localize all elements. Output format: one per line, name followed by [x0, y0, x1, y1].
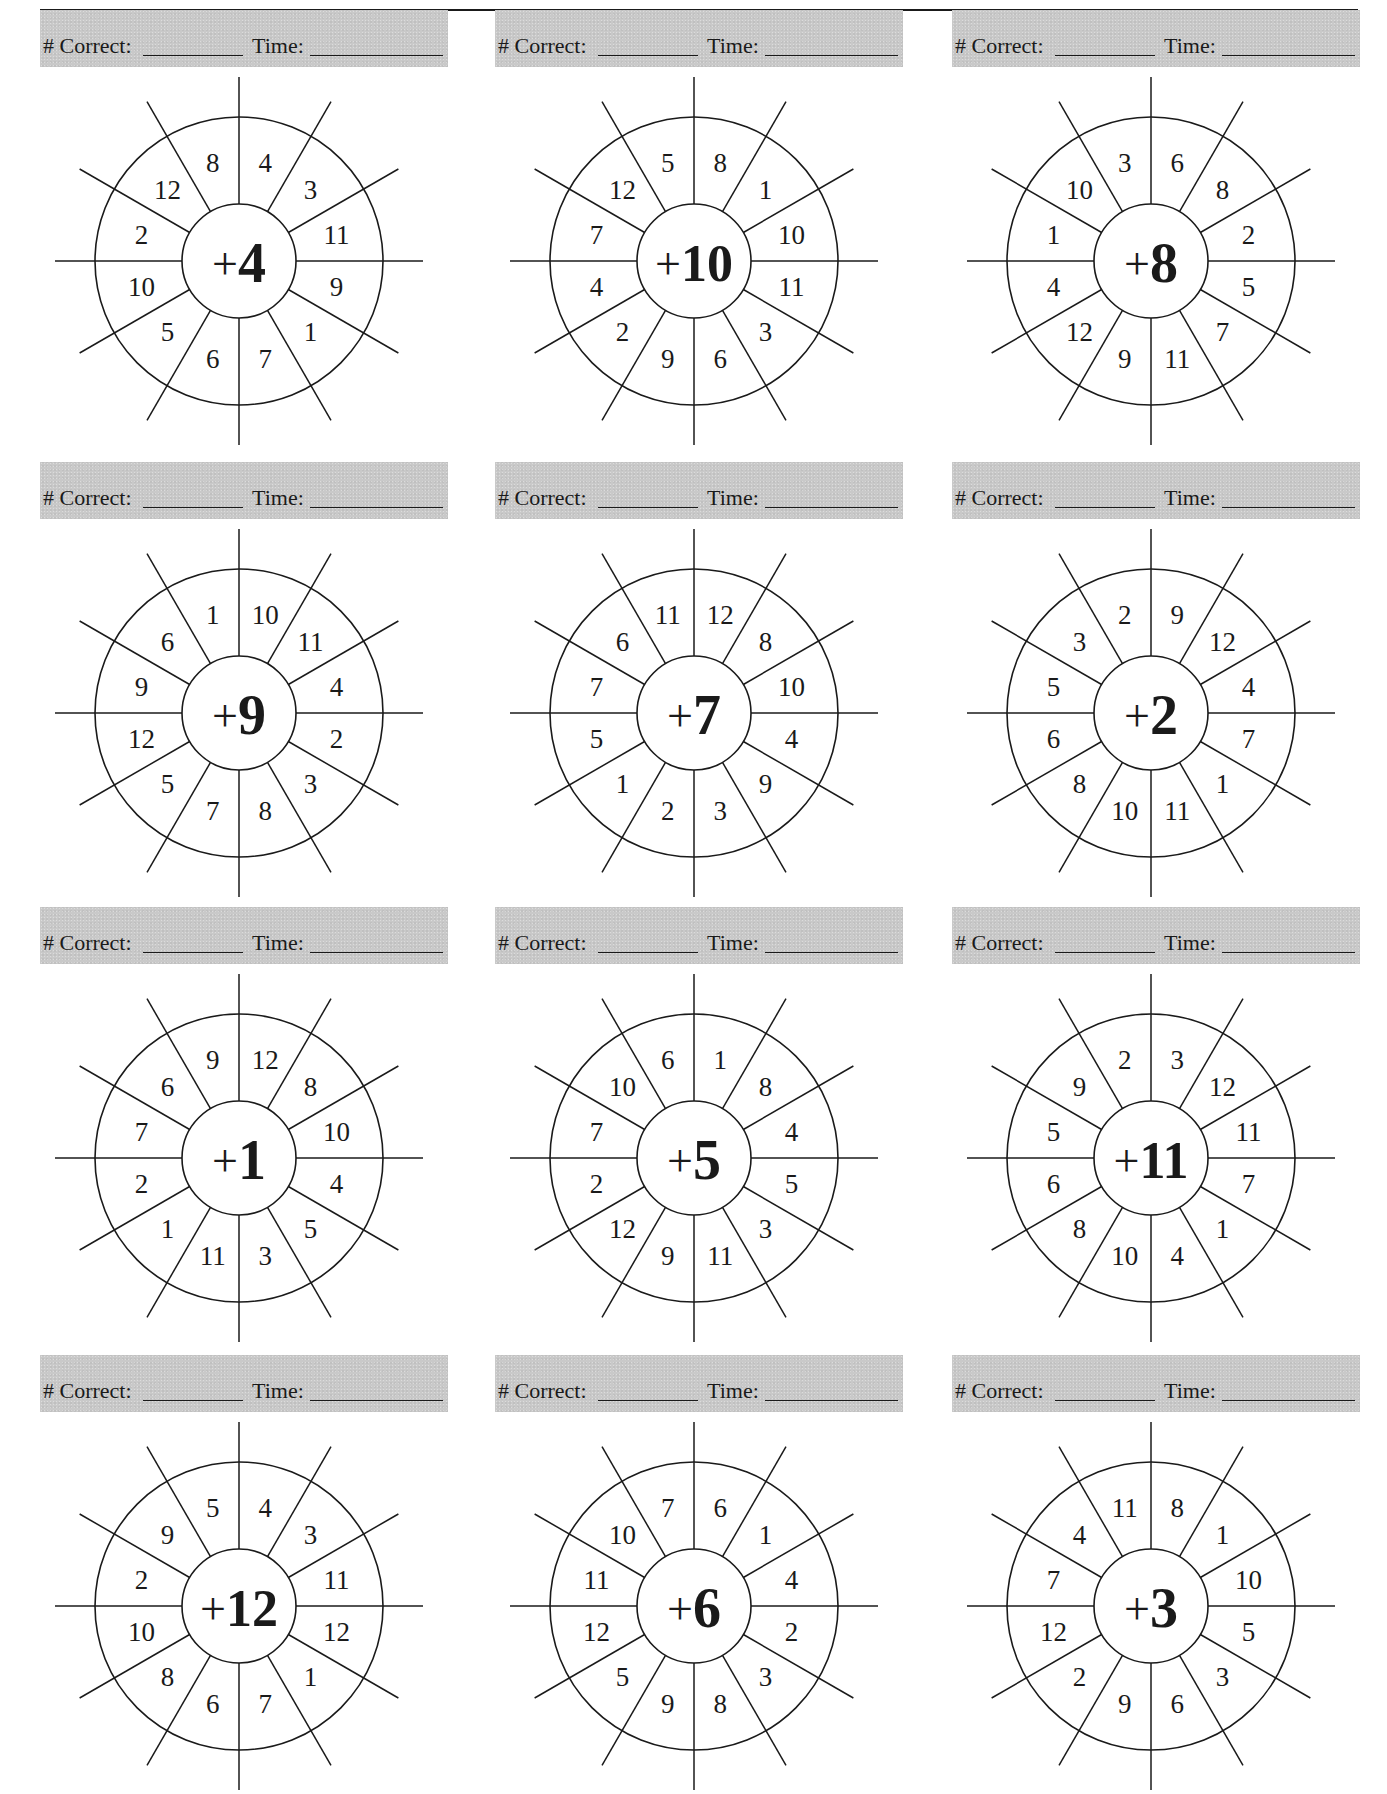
sector-number: 12 — [583, 1617, 610, 1647]
sector-number: 2 — [330, 724, 344, 754]
sector-number: 6 — [661, 1045, 675, 1075]
sector-number: 7 — [661, 1493, 675, 1523]
addend-number: 4 — [238, 232, 266, 294]
sector-number: 4 — [785, 1117, 799, 1147]
sector-number: 6 — [1170, 148, 1184, 178]
number-wheel: 101142387512961+9 — [40, 462, 448, 910]
center-addend-label: +1 — [212, 1129, 266, 1191]
spoke-line — [723, 1447, 787, 1557]
addend-number: 10 — [681, 235, 733, 292]
sector-number: 11 — [200, 1241, 226, 1271]
sector-number: 9 — [661, 1689, 675, 1719]
number-wheel: 431112176810295+12 — [40, 1355, 448, 1794]
sector-number: 10 — [778, 672, 805, 702]
number-wheel: 128104531112769+1 — [40, 907, 448, 1355]
sector-number: 4 — [258, 148, 272, 178]
sector-number: 9 — [1118, 1689, 1132, 1719]
number-wheel: 811053692127411+3 — [952, 1355, 1360, 1794]
wheel-cell-12: # Correct: Time: 811053692127411+3 — [952, 1355, 1360, 1794]
spoke-line — [147, 310, 211, 420]
wheel-cell-2: # Correct: Time: 811011369247125+10 — [495, 10, 903, 458]
sector-number: 1 — [1047, 220, 1061, 250]
wheel-cell-9: # Correct: Time: 312117141086592+11 — [952, 907, 1360, 1355]
sector-number: 5 — [161, 769, 175, 799]
operator-sign: + — [1124, 238, 1150, 289]
spoke-line — [147, 1655, 211, 1765]
sector-number: 10 — [778, 220, 805, 250]
addend-number: 7 — [693, 684, 721, 746]
sector-number: 8 — [258, 796, 272, 826]
sector-number: 5 — [785, 1169, 799, 1199]
wheel-cell-1: # Correct: Time: 431191765102128+4 — [40, 10, 448, 458]
sector-number: 6 — [1170, 1689, 1184, 1719]
wheel-cell-7: # Correct: Time: 128104531112769+1 — [40, 907, 448, 1355]
sector-number: 1 — [759, 1520, 773, 1550]
sector-number: 5 — [616, 1662, 630, 1692]
operator-sign: + — [1124, 690, 1150, 741]
sector-number: 3 — [258, 1241, 272, 1271]
sector-number: 10 — [128, 272, 155, 302]
sector-number: 9 — [161, 1520, 175, 1550]
sector-number: 9 — [135, 672, 149, 702]
sector-number: 1 — [759, 175, 773, 205]
sector-number: 7 — [258, 1689, 272, 1719]
sector-number: 12 — [154, 175, 181, 205]
sector-number: 12 — [1209, 1072, 1236, 1102]
operator-sign: + — [667, 690, 693, 741]
sector-number: 6 — [616, 627, 630, 657]
spoke-line — [147, 999, 211, 1109]
sector-number: 3 — [713, 796, 727, 826]
sector-number: 7 — [590, 672, 604, 702]
sector-number: 4 — [258, 1493, 272, 1523]
sector-number: 8 — [713, 1689, 727, 1719]
sector-number: 5 — [1242, 272, 1256, 302]
operator-sign: + — [667, 1135, 693, 1186]
sector-number: 4 — [330, 1169, 344, 1199]
sector-number: 4 — [785, 1565, 799, 1595]
number-wheel: 614238951211107+6 — [495, 1355, 903, 1794]
spoke-line — [1059, 1655, 1123, 1765]
sector-number: 11 — [655, 600, 681, 630]
sector-number: 5 — [1047, 1117, 1061, 1147]
operator-sign: + — [200, 1583, 226, 1634]
spoke-line — [723, 999, 787, 1109]
sector-number: 7 — [590, 220, 604, 250]
sector-number: 5 — [304, 1214, 318, 1244]
sector-number: 7 — [1216, 317, 1230, 347]
sector-number: 10 — [323, 1117, 350, 1147]
center-addend-label: +5 — [667, 1129, 721, 1191]
number-wheel: 312117141086592+11 — [952, 907, 1360, 1355]
center-addend-label: +8 — [1124, 232, 1178, 294]
wheel-cell-5: # Correct: Time: 128104932157611+7 — [495, 462, 903, 910]
number-wheel: 431191765102128+4 — [40, 10, 448, 458]
sector-number: 8 — [304, 1072, 318, 1102]
sector-number: 5 — [161, 317, 175, 347]
spoke-line — [268, 310, 332, 420]
sector-number: 10 — [1235, 1565, 1262, 1595]
spoke-line — [1180, 1655, 1244, 1765]
sector-number: 2 — [1118, 1045, 1132, 1075]
operator-sign: + — [667, 1583, 693, 1634]
sector-number: 11 — [1164, 344, 1190, 374]
number-wheel: 184531191227106+5 — [495, 907, 903, 1355]
sector-number: 12 — [1209, 627, 1236, 657]
sector-number: 6 — [161, 627, 175, 657]
sector-number: 8 — [206, 148, 220, 178]
sector-number: 12 — [707, 600, 734, 630]
sector-number: 11 — [707, 1241, 733, 1271]
sector-number: 10 — [252, 600, 279, 630]
sector-number: 4 — [1073, 1520, 1087, 1550]
spoke-line — [147, 762, 211, 872]
sector-number: 7 — [590, 1117, 604, 1147]
addend-number: 1 — [238, 1129, 266, 1191]
sector-number: 1 — [1216, 1520, 1230, 1550]
sector-number: 1 — [206, 600, 220, 630]
sector-number: 11 — [1236, 1117, 1262, 1147]
sector-number: 5 — [1242, 1617, 1256, 1647]
sector-number: 12 — [1040, 1617, 1067, 1647]
sector-number: 8 — [1216, 175, 1230, 205]
sector-number: 7 — [1047, 1565, 1061, 1595]
wheel-cell-8: # Correct: Time: 184531191227106+5 — [495, 907, 903, 1355]
sector-number: 6 — [713, 344, 727, 374]
spoke-line — [268, 1655, 332, 1765]
